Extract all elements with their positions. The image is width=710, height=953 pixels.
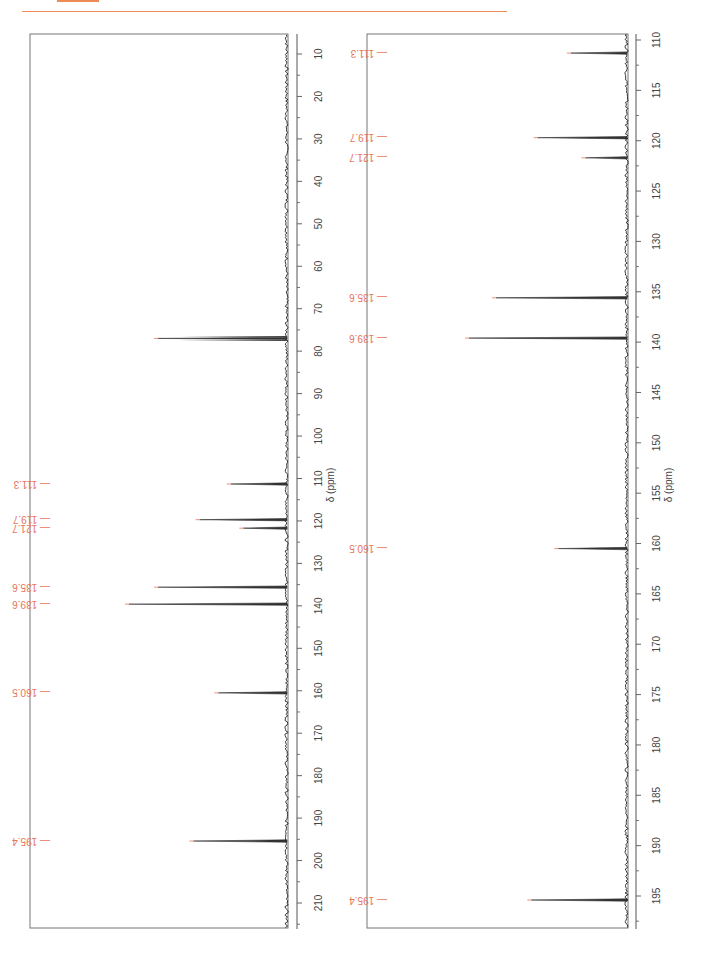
svg-text:30: 30 [313, 133, 324, 145]
peak-77 [154, 336, 287, 341]
tick-label: 160 [651, 535, 662, 552]
peak-121.7 [581, 157, 627, 159]
peak-label: — 121.7 [349, 152, 387, 163]
svg-text:120: 120 [651, 132, 662, 149]
peak-111.3 [567, 52, 627, 54]
svg-text:20: 20 [313, 90, 324, 102]
tick-label: 30 [313, 133, 324, 145]
plot-frame [30, 34, 288, 928]
svg-text:120: 120 [313, 512, 324, 529]
full-spectrum-panel: — 111.3— 119.7— 121.7— 135.6— 139.6— 160… [12, 34, 336, 929]
svg-text:δ (ppm): δ (ppm) [325, 468, 336, 502]
tick-label: 150 [313, 640, 324, 657]
tick-label: 140 [313, 597, 324, 614]
peak-label: — 160.5 [349, 543, 387, 554]
peak-139.6 [125, 603, 287, 605]
svg-text:10: 10 [313, 48, 324, 60]
tick-label: 180 [651, 736, 662, 753]
tick-label: 80 [313, 345, 324, 357]
peak-label: — 135.6 [12, 582, 50, 593]
tick-label: 120 [651, 132, 662, 149]
tick-label: 60 [313, 260, 324, 272]
tick-label: 115 [651, 82, 662, 98]
tick-label: 50 [313, 218, 324, 230]
svg-text:δ (ppm): δ (ppm) [663, 468, 674, 502]
svg-text:— 111.3: — 111.3 [350, 48, 387, 59]
tick-label: 40 [313, 175, 324, 187]
peak-135.6 [154, 586, 287, 588]
svg-text:— 121.7: — 121.7 [349, 152, 387, 163]
svg-text:— 135.6: — 135.6 [12, 582, 50, 593]
svg-text:— 195.4: — 195.4 [349, 895, 387, 906]
tick-label: 135 [651, 283, 662, 300]
tick-label: 130 [651, 233, 662, 250]
svg-text:175: 175 [651, 686, 662, 703]
peak-121.7 [239, 527, 287, 529]
svg-text:185: 185 [651, 787, 662, 804]
svg-text:190: 190 [313, 809, 324, 826]
svg-text:110: 110 [313, 470, 324, 486]
svg-text:190: 190 [651, 837, 662, 854]
tick-label: 190 [651, 837, 662, 854]
svg-text:— 111.3: — 111.3 [13, 479, 50, 490]
tick-label: 195 [651, 887, 662, 904]
svg-text:200: 200 [313, 852, 324, 869]
tick-label: 145 [651, 384, 662, 401]
svg-text:195: 195 [651, 887, 662, 904]
tick-label: 130 [313, 555, 324, 572]
svg-text:— 121.7: — 121.7 [12, 523, 50, 534]
tick-label: 110 [651, 32, 662, 48]
tick-label: 125 [651, 182, 662, 199]
peak-119.7 [534, 136, 627, 138]
tick-label: 10 [313, 48, 324, 60]
tick-label: 20 [313, 90, 324, 102]
tick-label: 165 [651, 585, 662, 602]
svg-text:150: 150 [651, 434, 662, 451]
svg-text:130: 130 [313, 555, 324, 572]
tick-label: 140 [651, 333, 662, 350]
tick-label: 200 [313, 852, 324, 869]
peak-139.6 [465, 337, 627, 339]
svg-text:60: 60 [313, 260, 324, 272]
svg-text:170: 170 [651, 635, 662, 652]
plot-frame [367, 34, 628, 928]
svg-text:140: 140 [313, 597, 324, 614]
svg-text:50: 50 [313, 218, 324, 230]
peak-label: — 160.5 [12, 687, 50, 698]
expanded-spectrum-panel: — 111.3— 119.7— 121.7— 135.6— 139.6— 160… [349, 32, 674, 929]
peak-135.6 [492, 297, 627, 299]
tick-label: 90 [313, 388, 324, 400]
tick-label: 70 [313, 303, 324, 315]
peak-111.3 [227, 483, 287, 485]
tick-label: 190 [313, 809, 324, 826]
peak-label: — 195.4 [349, 895, 387, 906]
peak-160.5 [214, 692, 287, 694]
svg-text:180: 180 [313, 767, 324, 784]
tick-label: 110 [313, 470, 324, 486]
peak-195.4 [189, 840, 287, 842]
svg-text:100: 100 [313, 427, 324, 444]
tick-label: 170 [651, 635, 662, 652]
peak-119.7 [196, 518, 287, 520]
svg-text:140: 140 [651, 333, 662, 350]
svg-text:180: 180 [651, 736, 662, 753]
peak-label: — 111.3 [350, 48, 387, 59]
svg-text:135: 135 [651, 283, 662, 300]
peak-160.5 [554, 547, 627, 549]
svg-text:160: 160 [313, 682, 324, 699]
svg-text:110: 110 [651, 32, 662, 48]
tick-label: 170 [313, 724, 324, 741]
tick-label: 155 [651, 484, 662, 501]
svg-text:145: 145 [651, 384, 662, 401]
svg-text:150: 150 [313, 640, 324, 657]
svg-text:— 160.5: — 160.5 [349, 543, 387, 554]
svg-text:165: 165 [651, 585, 662, 602]
tick-label: 100 [313, 427, 324, 444]
tick-label: 180 [313, 767, 324, 784]
peak-195.4 [527, 899, 627, 901]
svg-text:80: 80 [313, 345, 324, 357]
svg-text:90: 90 [313, 388, 324, 400]
peak-label: — 111.3 [13, 479, 50, 490]
peak-label: — 135.6 [349, 292, 387, 303]
peak-label: — 119.7 [350, 132, 387, 143]
